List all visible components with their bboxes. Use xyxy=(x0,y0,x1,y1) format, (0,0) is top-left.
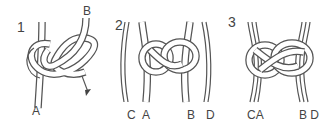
cord-label-c: C xyxy=(127,108,136,122)
step-number: 2 xyxy=(115,17,123,33)
cord-label-bd: B D xyxy=(299,108,319,122)
cord-label-d: D xyxy=(206,108,215,122)
panel-step-2: 2 C A B D xyxy=(110,0,222,132)
cord-label-ca: CA xyxy=(247,108,264,122)
cord-label-a: A xyxy=(142,108,150,122)
step-number: 3 xyxy=(228,14,236,30)
down-right-arrow-icon xyxy=(85,89,91,96)
step-number: 1 xyxy=(17,19,25,35)
cord-label-b: B xyxy=(83,4,91,18)
cord-label-b: B xyxy=(187,108,195,122)
panel-step-1: 1 A B xyxy=(0,0,110,132)
cord-label-a: A xyxy=(32,104,40,118)
panel-step-3: 3 CA B D xyxy=(220,0,335,132)
